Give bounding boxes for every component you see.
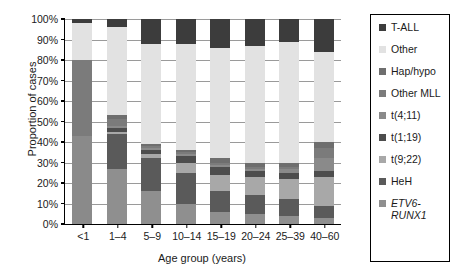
legend-label: Other MLL xyxy=(391,88,441,100)
legend-item-t-9-22[interactable]: t(9;22) xyxy=(379,154,445,166)
bar-segment xyxy=(176,204,196,225)
stacked-bar-chart-figure: Proportion of cases 0%10%20%30%40%50%60%… xyxy=(0,0,456,276)
legend-swatch-icon xyxy=(379,156,386,163)
bar-20-24[interactable] xyxy=(245,19,265,224)
legend-item-hap-hypo[interactable]: Hap/hypo xyxy=(379,66,445,78)
bar-segment xyxy=(210,19,230,48)
bar-segment xyxy=(314,158,334,170)
legend-label: ETV6- RUNX1 xyxy=(391,198,427,221)
bar-5-9[interactable] xyxy=(141,19,161,224)
legend-item-etv6-runx1[interactable]: ETV6- RUNX1 xyxy=(379,198,445,221)
bar-segment xyxy=(314,19,334,52)
legend: T-ALLOtherHap/hypoOther MLLt(4;11)t(1;19… xyxy=(370,14,450,262)
bar-segment xyxy=(279,19,299,42)
bar-segment xyxy=(210,191,230,212)
bar-segment xyxy=(314,177,334,206)
bars-container xyxy=(65,19,341,224)
x-axis-tick-label: 15–19 xyxy=(207,231,236,242)
bar-segment xyxy=(176,19,196,44)
y-axis-tick-label: 10% xyxy=(37,198,58,209)
bar-segment xyxy=(72,136,92,224)
x-axis-tick-label: 10–14 xyxy=(172,231,201,242)
legend-swatch-icon xyxy=(379,24,386,31)
legend-item-other-mll[interactable]: Other MLL xyxy=(379,88,445,100)
bar-15-19[interactable] xyxy=(210,19,230,224)
bar-1-4[interactable] xyxy=(107,19,127,224)
x-axis-tick xyxy=(290,224,291,228)
legend-item-t-4-11[interactable]: t(4;11) xyxy=(379,110,445,122)
bar-segment xyxy=(245,195,265,213)
bar-segment xyxy=(245,19,265,46)
plot-area: 0%10%20%30%40%50%60%70%80%90%100% <11–45… xyxy=(64,19,341,225)
legend-swatch-icon xyxy=(379,46,386,53)
bar-segment xyxy=(107,169,127,224)
bar-segment xyxy=(279,42,299,163)
bar-10-14[interactable] xyxy=(176,19,196,224)
y-axis-tick-label: 40% xyxy=(37,137,58,148)
bar-segment xyxy=(141,19,161,44)
legend-item-t-all[interactable]: T-ALL xyxy=(379,22,445,34)
bar-segment xyxy=(314,206,334,218)
bar-segment xyxy=(279,179,299,200)
bar-segment xyxy=(210,212,230,224)
y-axis-tick-label: 20% xyxy=(37,178,58,189)
bar-segment xyxy=(245,214,265,224)
bar-segment xyxy=(245,177,265,195)
legend-swatch-icon xyxy=(379,134,386,141)
bar-segment xyxy=(176,163,196,173)
bar-25-39[interactable] xyxy=(279,19,299,224)
x-axis-tick xyxy=(152,224,153,228)
legend-label: Hap/hypo xyxy=(391,66,436,78)
y-axis-tick-label: 70% xyxy=(37,75,58,86)
y-axis-tick-label: 80% xyxy=(37,55,58,66)
legend-item-t-1-19[interactable]: t(1;19) xyxy=(379,132,445,144)
bar-segment xyxy=(210,175,230,191)
x-axis-title: Age group (years) xyxy=(64,252,340,264)
y-axis-tick-label: 50% xyxy=(37,116,58,127)
y-axis-tick-label: 100% xyxy=(31,14,58,25)
legend-label: t(9;22) xyxy=(391,154,421,166)
bar-segment xyxy=(314,148,334,158)
bar-segment xyxy=(107,134,127,169)
legend-swatch-icon xyxy=(379,68,386,75)
legend-label: Other xyxy=(391,44,417,56)
legend-swatch-icon xyxy=(379,178,386,185)
bar-segment xyxy=(141,191,161,224)
bar-40-60[interactable] xyxy=(314,19,334,224)
bar-segment xyxy=(72,23,92,60)
legend-label: t(4;11) xyxy=(391,110,421,122)
bar-segment xyxy=(279,199,299,215)
legend-label: t(1;19) xyxy=(391,132,421,144)
x-axis-tick xyxy=(117,224,118,228)
legend-label: HeH xyxy=(391,176,412,188)
bar-segment xyxy=(314,52,334,142)
bar-segment xyxy=(279,216,299,224)
legend-item-heh[interactable]: HeH xyxy=(379,176,445,188)
x-axis-tick xyxy=(324,224,325,228)
bar-segment xyxy=(72,60,92,136)
y-axis-tick-label: 60% xyxy=(37,96,58,107)
x-axis-tick xyxy=(83,224,84,228)
x-axis-tick xyxy=(221,224,222,228)
legend-swatch-icon xyxy=(379,90,386,97)
legend-item-other[interactable]: Other xyxy=(379,44,445,56)
x-axis-tick-label: 40–60 xyxy=(310,231,339,242)
x-axis-tick-label: 5–9 xyxy=(143,231,161,242)
x-axis-tick xyxy=(255,224,256,228)
x-axis-tick-label: 1–4 xyxy=(109,231,127,242)
x-axis-tick xyxy=(186,224,187,228)
legend-swatch-icon xyxy=(379,200,386,207)
x-axis-tick-label: 20–24 xyxy=(241,231,270,242)
bar-segment xyxy=(107,19,127,27)
bar-segment xyxy=(210,167,230,175)
x-axis-tick-label: 25–39 xyxy=(276,231,305,242)
legend-swatch-icon xyxy=(379,112,386,119)
bar-segment xyxy=(245,46,265,163)
y-axis-tick-label: 90% xyxy=(37,34,58,45)
bar-segment xyxy=(176,44,196,151)
bar-1[interactable] xyxy=(72,19,92,224)
bar-segment xyxy=(141,44,161,144)
y-axis-tick-label: 0% xyxy=(43,219,58,230)
bar-segment xyxy=(176,173,196,204)
bar-segment xyxy=(107,27,127,115)
